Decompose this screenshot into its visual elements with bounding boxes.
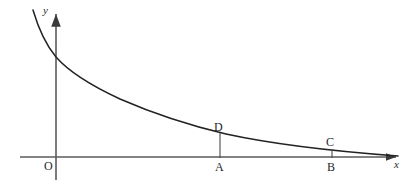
decay-curve bbox=[33, 10, 398, 156]
point-label-d: D bbox=[214, 121, 223, 133]
y-axis-label: y bbox=[43, 5, 48, 16]
point-label-c: C bbox=[326, 136, 334, 148]
math-figure: y x O A B C D bbox=[0, 0, 416, 184]
origin-label: O bbox=[44, 160, 53, 172]
point-label-b: B bbox=[327, 161, 335, 173]
figure-canvas bbox=[0, 0, 416, 184]
x-axis-label: x bbox=[394, 159, 399, 170]
point-label-a: A bbox=[215, 161, 224, 173]
